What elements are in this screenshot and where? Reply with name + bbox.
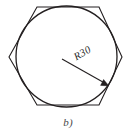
circle-shape: [16, 6, 117, 107]
radius-leader-line: [62, 59, 106, 84]
radius-label-group: R30: [71, 44, 93, 63]
hexagon-shape: [9, 7, 122, 105]
radius-dimension-label: R30: [71, 44, 93, 63]
leader-arrowhead-icon: [101, 79, 110, 86]
technical-drawing-figure: R30 b): [0, 0, 136, 138]
figure-caption: b): [0, 116, 136, 128]
